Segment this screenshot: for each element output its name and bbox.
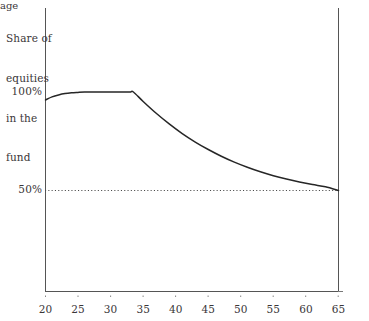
x-tick-label-65: 65	[327, 303, 351, 315]
y-axis-title: Share of equities in the fund	[6, 6, 44, 191]
x-tick-label-40: 40	[164, 303, 188, 315]
chart-container: Share of equities in the fund 100% 50% a…	[0, 0, 369, 321]
x-tick-label-50: 50	[229, 303, 253, 315]
y-axis-title-line-3: in the	[6, 112, 44, 125]
x-tick-label-35: 35	[131, 303, 155, 315]
x-axis-ticks	[46, 296, 339, 298]
x-tick-label-25: 25	[66, 303, 90, 315]
x-tick-label-45: 45	[196, 303, 220, 315]
equity-share-curve	[46, 91, 339, 190]
x-tick-label-20: 20	[34, 303, 58, 315]
x-tick-label-60: 60	[294, 303, 318, 315]
y-axis-title-line-1: Share of	[6, 32, 44, 45]
y-axis-title-line-4: fund	[6, 151, 44, 164]
y-tick-label-100: 100%	[4, 85, 42, 97]
x-tick-label-30: 30	[99, 303, 123, 315]
x-tick-label-55: 55	[261, 303, 285, 315]
y-axis-title-line-2: equities	[6, 72, 44, 85]
chart-plot-area	[0, 0, 369, 321]
y-tick-label-50: 50%	[4, 183, 42, 195]
